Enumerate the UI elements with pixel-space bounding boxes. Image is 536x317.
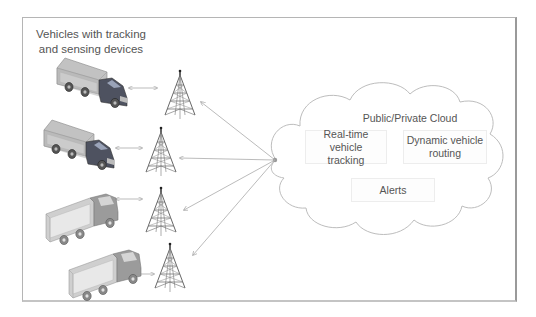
service-label-line1: Dynamic vehicle bbox=[407, 134, 483, 147]
link-hub-tower-4 bbox=[193, 160, 275, 255]
service-realtime-tracking: Real-time vehicle tracking bbox=[305, 130, 387, 164]
cell-tower-2-icon bbox=[146, 127, 176, 176]
service-label-line2: routing bbox=[407, 147, 483, 160]
truck-4-icon bbox=[69, 250, 141, 301]
diagram-canvas: Vehicles with tracking and sensing devic… bbox=[0, 0, 536, 317]
truck-2-icon bbox=[44, 120, 114, 170]
link-hub-tower-2 bbox=[180, 158, 275, 160]
link-hub-tower-1 bbox=[201, 102, 275, 160]
service-label-line2: tracking bbox=[306, 154, 386, 167]
truck-3-icon bbox=[46, 194, 118, 245]
service-label-line1: Alerts bbox=[380, 184, 407, 197]
service-label-line1: Real-time vehicle bbox=[306, 128, 386, 154]
cell-tower-4-icon bbox=[155, 243, 185, 292]
cell-tower-3-icon bbox=[146, 187, 176, 236]
cloud-label: Public/Private Cloud bbox=[340, 112, 480, 124]
service-dynamic-routing: Dynamic vehicle routing bbox=[403, 130, 487, 164]
cell-tower-1-icon bbox=[165, 70, 195, 119]
link-hub-tower-3 bbox=[184, 160, 275, 210]
service-alerts: Alerts bbox=[351, 178, 435, 202]
truck-1-icon bbox=[57, 58, 127, 108]
